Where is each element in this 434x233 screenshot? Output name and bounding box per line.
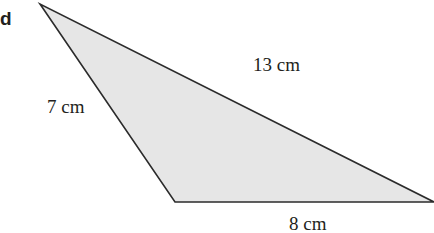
part-label: d [0, 8, 12, 29]
side-label-bottom: 8 cm [289, 213, 327, 233]
triangle-diagram: d 7 cm 13 cm 8 cm [0, 0, 434, 233]
triangle-shape [40, 4, 434, 202]
side-label-left: 7 cm [47, 96, 85, 117]
side-label-hypotenuse: 13 cm [253, 54, 300, 75]
